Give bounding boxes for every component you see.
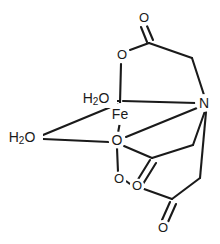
bond-carbonyl-top-double-line-b xyxy=(147,26,153,40)
bond-carbonyl-carbon-to-methylene-top xyxy=(149,43,192,58)
bond-oxygen-lower-left-to-oxygen-lower-right xyxy=(126,181,130,184)
atom-label-oxygen-carbonyl-top: O xyxy=(139,10,149,25)
bond-carbonyl-mid-double-line-b xyxy=(143,163,156,184)
atom-label-oxygen-carbonyl-bottom: O xyxy=(158,220,168,235)
water-top-h: H xyxy=(83,90,93,106)
chemical-structure-figure: Fe N H2O H2O O O O O O O xyxy=(0,0,220,244)
bond-fe-to-ester-oxygen-top xyxy=(120,64,121,103)
structure-canvas: Fe N H2O H2O O O O O O O xyxy=(0,0,220,244)
bond-fe-to-nitrogen xyxy=(123,101,196,103)
bond-carbonyl-carbon-mid-to-oxygen-center xyxy=(124,146,152,158)
bond-ester-oxygen-to-carbonyl-carbon-top xyxy=(130,43,149,50)
water-left-h: H xyxy=(9,129,19,145)
atom-label-oxygen-center: O xyxy=(112,132,123,148)
bond-carbonyl-bottom-double-line-b xyxy=(168,204,176,222)
atom-label-oxygen-lower-left: O xyxy=(114,171,124,186)
bond-carbonyl-bottom-double-line-a xyxy=(162,202,170,220)
bond-methylene-mid-to-carbonyl-carbon-mid xyxy=(152,145,193,158)
water-top-o: O xyxy=(98,90,109,106)
atom-label-oxygen-lower-right: O xyxy=(132,178,142,193)
bond-fe-to-water-left xyxy=(43,104,118,135)
bond-oxygen-center-to-oxygen-lower-left xyxy=(117,148,118,172)
bond-carbonyl-top-double-line-a xyxy=(141,27,147,42)
bond-oxygen-center-to-nitrogen xyxy=(126,108,197,137)
atom-label-oxygen-ester-top: O xyxy=(117,47,127,62)
water-left-o: O xyxy=(24,129,35,145)
atom-label-n: N xyxy=(199,95,209,111)
bond-oxygen-center-to-water-left xyxy=(43,139,109,142)
bond-oxygen-lower-right-to-carbonyl-carbon-bottom xyxy=(144,189,172,199)
bond-methylene-top-to-nitrogen xyxy=(192,58,204,95)
atom-label-fe: Fe xyxy=(112,106,129,122)
bond-carbonyl-carbon-bottom-to-methylene-bottom xyxy=(172,178,200,199)
